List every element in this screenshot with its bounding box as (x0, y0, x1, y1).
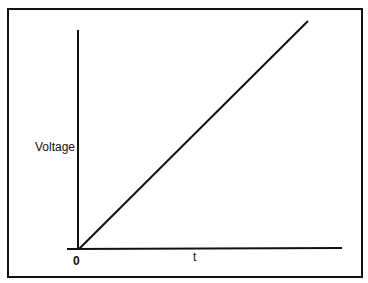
x-axis-label: t (193, 250, 196, 264)
x-axis (67, 248, 342, 249)
origin-label: 0 (73, 254, 80, 268)
y-axis-label: Voltage (35, 140, 75, 154)
voltage-line (79, 21, 308, 249)
